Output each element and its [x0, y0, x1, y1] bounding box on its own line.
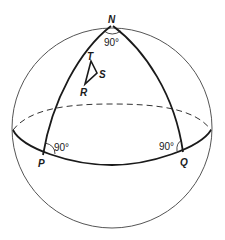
label-N: N [108, 14, 116, 25]
small-triangle-RST [85, 61, 97, 84]
sphere-diagram: N 90° T S R 90° P 90° Q [0, 0, 225, 240]
angle-label-P: 90° [54, 142, 69, 153]
diagram-canvas: N 90° T S R 90° P 90° Q [0, 0, 225, 240]
label-P: P [38, 158, 45, 169]
meridian-NQ [113, 26, 183, 152]
label-Q: Q [180, 157, 188, 168]
angle-label-N: 90° [104, 37, 119, 48]
sphere-outline [12, 28, 212, 228]
label-S: S [99, 69, 106, 80]
label-R: R [80, 87, 88, 98]
equator-back-dashed [13, 104, 211, 130]
angle-label-Q: 90° [159, 141, 174, 152]
label-T: T [87, 51, 94, 62]
meridian-NP [43, 26, 111, 155]
